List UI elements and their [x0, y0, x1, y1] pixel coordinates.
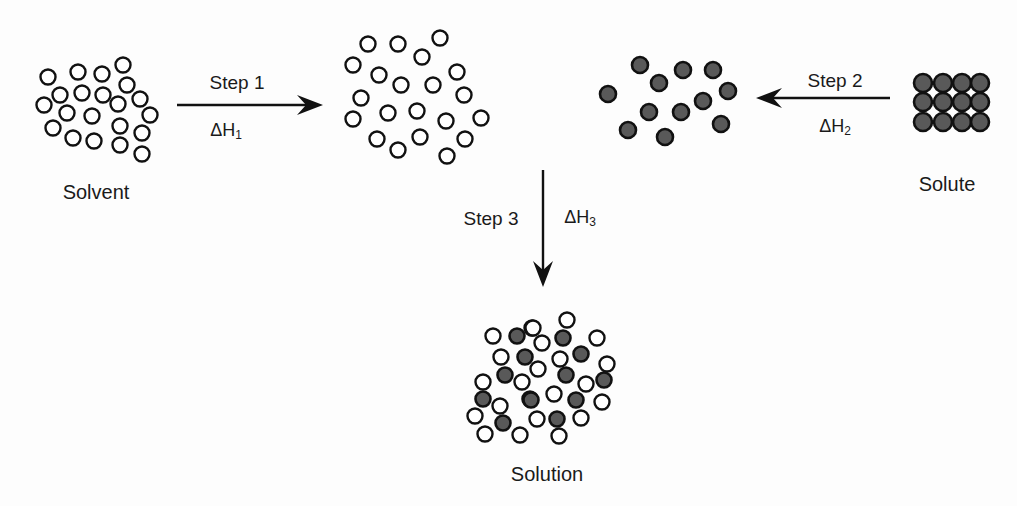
solvent-molecules: [37, 58, 158, 162]
solute-particle: [651, 75, 667, 91]
delta-h2-label: ΔH2: [819, 117, 851, 137]
solute-particle: [498, 368, 513, 383]
solvent-molecule: [450, 65, 465, 80]
solute-particle: [934, 93, 952, 111]
solvent-molecule: [111, 97, 126, 112]
step-1-label: Step 1: [210, 73, 265, 92]
solvent-molecule: [494, 350, 509, 365]
solute-particle: [574, 347, 589, 362]
solute-particle: [559, 368, 574, 383]
solvent-molecule: [116, 58, 131, 73]
solvent-molecule: [413, 130, 428, 145]
solute-particle: [953, 113, 971, 131]
solute-particle: [953, 93, 971, 111]
solvent-molecule: [415, 50, 430, 65]
solvent-molecule: [372, 68, 387, 83]
solvent-molecule: [87, 134, 102, 149]
separated-solvent-molecules: [346, 31, 489, 164]
solute-particle: [971, 74, 989, 92]
solvent-molecule: [135, 147, 150, 162]
step-2-label: Step 2: [808, 71, 863, 90]
solvent-molecule: [346, 112, 361, 127]
solute-particle: [713, 116, 729, 132]
separated-solute-particles: [600, 57, 736, 145]
solute-particle: [971, 113, 989, 131]
solvent-molecule: [579, 377, 594, 392]
solvent-molecule: [410, 104, 425, 119]
solvent-molecule: [560, 313, 575, 328]
solute-particle: [476, 392, 491, 407]
solvent-molecule: [600, 357, 615, 372]
solute-particle: [641, 104, 657, 120]
solute-particle: [914, 93, 932, 111]
solvent-molecule: [75, 86, 90, 101]
solvent-molecule: [468, 409, 483, 424]
solvent-molecule: [513, 428, 528, 443]
solute-particle: [597, 373, 612, 388]
solvent-molecule: [590, 331, 605, 346]
step-3-label: Step 3: [464, 209, 519, 228]
solvent-molecule: [478, 427, 493, 442]
solvent-molecule: [41, 70, 56, 85]
solvent-molecule: [71, 65, 86, 80]
solvent-molecule: [474, 111, 489, 126]
solute-particle: [550, 412, 565, 427]
solvent-molecule: [346, 58, 361, 73]
solute-particle: [556, 331, 571, 346]
solute-particle: [496, 416, 511, 431]
solvent-molecule: [439, 114, 454, 129]
solute-particle: [569, 393, 584, 408]
solvent-molecule: [493, 399, 508, 414]
solvent-label: Solvent: [63, 182, 130, 202]
solvent-molecule: [531, 362, 546, 377]
solution-label: Solution: [511, 464, 583, 484]
solvent-molecule: [120, 78, 135, 93]
solute-particle: [914, 113, 932, 131]
solvent-molecule: [440, 149, 455, 164]
solvent-molecule: [113, 138, 128, 153]
solvent-molecule: [135, 126, 150, 141]
solute-particle: [720, 83, 736, 99]
solvent-molecule: [526, 321, 541, 336]
solute-particle: [673, 104, 689, 120]
solvent-molecule: [66, 131, 81, 146]
solvent-molecule: [60, 106, 75, 121]
solution-enthalpy-diagram: Solvent Solute Solution Step 1 ΔH1 Step …: [0, 0, 1017, 506]
solute-particle: [953, 74, 971, 92]
solvent-molecule: [547, 387, 562, 402]
solvent-molecule: [95, 67, 110, 82]
step-arrows: [177, 88, 890, 287]
solvent-molecule: [574, 411, 589, 426]
solvent-molecule: [486, 329, 501, 344]
solvent-molecule: [391, 37, 406, 52]
delta-h1-label: ΔH1: [210, 121, 242, 141]
solvent-molecule: [133, 92, 148, 107]
solvent-molecule: [391, 143, 406, 158]
solute-particle: [971, 93, 989, 111]
solvent-molecule: [457, 88, 472, 103]
solute-particle: [657, 129, 673, 145]
solvent-molecule: [515, 375, 530, 390]
solvent-molecule: [143, 108, 158, 123]
solvent-molecule: [53, 88, 68, 103]
solute-crystal: [914, 74, 989, 131]
solute-particle: [934, 74, 952, 92]
solvent-molecule: [595, 395, 610, 410]
solution-mixture: [468, 313, 615, 444]
solvent-molecule: [354, 91, 369, 106]
solvent-molecule: [361, 37, 376, 52]
solute-particle: [934, 113, 952, 131]
solute-particle: [632, 57, 648, 73]
solvent-molecule: [46, 121, 61, 136]
solute-label: Solute: [919, 174, 976, 194]
solute-particle: [914, 74, 932, 92]
solute-particle: [518, 350, 533, 365]
solute-particle: [695, 93, 711, 109]
solvent-molecule: [37, 98, 52, 113]
diagram-canvas: [0, 0, 1017, 506]
solute-particle: [600, 86, 616, 102]
solvent-molecule: [476, 375, 491, 390]
solute-particle: [524, 393, 539, 408]
solvent-molecule: [381, 106, 396, 121]
solvent-molecule: [85, 109, 100, 124]
